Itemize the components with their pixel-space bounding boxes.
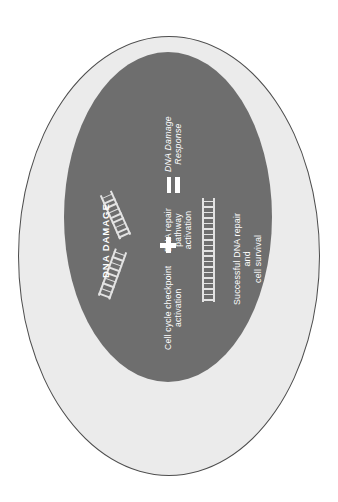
equals-bar-top — [167, 177, 171, 193]
diagram-canvas: DNA DAMAGE Cell cycle checkpoint activat… — [0, 0, 338, 502]
dna-rung — [202, 201, 215, 203]
label-dna-damage: DNA DAMAGE — [100, 203, 111, 278]
dna-rung — [202, 272, 215, 274]
equals-bar-bottom — [175, 177, 179, 193]
label-dna-damage-response: DNA Damage Response — [163, 116, 184, 172]
dna-rung — [202, 283, 215, 285]
dna-rung — [202, 266, 215, 268]
dna-rung — [202, 255, 215, 257]
dna-rung — [202, 212, 215, 214]
dna-rung — [202, 299, 215, 301]
label-cell-cycle-checkpoint-activation: Cell cycle checkpoint activation — [163, 266, 183, 350]
dna-rung — [202, 294, 215, 296]
dna-rung — [202, 217, 215, 219]
dna-rung — [202, 288, 215, 290]
dna-rung — [202, 206, 215, 208]
dna-rung — [202, 234, 215, 236]
dna-intact-strand-icon — [202, 198, 215, 302]
dna-rung — [202, 250, 215, 252]
dna-rung — [202, 277, 215, 279]
dna-rung — [202, 239, 215, 241]
equals-operator-icon — [167, 177, 181, 193]
dna-rung — [202, 228, 215, 230]
dna-rung — [202, 261, 215, 263]
dna-rung — [202, 245, 215, 247]
label-dna-repair-pathway-activation: DNA repair pathway activation — [163, 208, 193, 252]
label-successful-dna-repair-cell-survival: Successful DNA repair and cell survival — [232, 213, 263, 305]
dna-rung — [202, 223, 215, 225]
